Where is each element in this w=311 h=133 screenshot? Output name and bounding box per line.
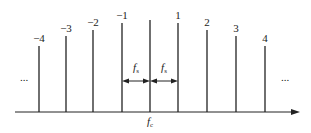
line-index-label: −4: [33, 33, 45, 44]
line-index-label: 1: [175, 10, 181, 21]
line-index-label: −2: [87, 17, 99, 28]
line-index-label: 4: [262, 33, 268, 44]
line-index-label: 3: [233, 23, 239, 34]
line-index-label: −3: [60, 23, 72, 34]
ellipsis-right: ...: [281, 72, 289, 83]
line-index-label: 2: [204, 17, 210, 28]
fs-label-right: fs: [161, 62, 167, 75]
fs-label-left: fs: [133, 62, 139, 75]
spectrum-diagram: [0, 0, 311, 133]
line-index-label: −1: [116, 10, 128, 21]
axis-arrow-icon: [291, 109, 300, 115]
arrowhead-icon: [143, 79, 150, 84]
arrowhead-icon: [150, 79, 157, 84]
arrowhead-icon: [122, 79, 129, 84]
fc-label: fc: [147, 116, 153, 129]
arrowhead-icon: [171, 79, 178, 84]
ellipsis-left: ...: [20, 72, 28, 83]
